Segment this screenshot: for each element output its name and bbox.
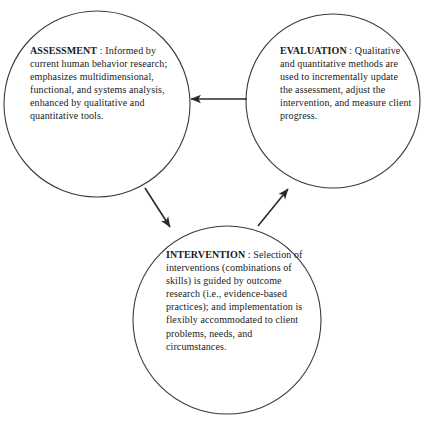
node-body-assessment: Informed by current human behavior resea…	[30, 45, 167, 121]
node-title-intervention: INTERVENTION	[166, 249, 245, 260]
arrow-intervention-to-evaluation	[258, 189, 288, 226]
node-separator-evaluation: :	[347, 45, 355, 56]
node-body-intervention: Selection of interventions (combinations…	[166, 249, 303, 352]
node-body-evaluation: Qualitative and quantitative methods are…	[280, 45, 412, 121]
node-title-assessment: ASSESSMENT	[30, 45, 97, 56]
node-label-intervention: INTERVENTION : Selection of intervention…	[166, 248, 308, 353]
node-title-evaluation: EVALUATION	[280, 45, 347, 56]
node-label-assessment: ASSESSMENT : Informed by current human b…	[30, 44, 185, 123]
diagram-canvas: ASSESSMENT : Informed by current human b…	[0, 0, 423, 425]
node-label-evaluation: EVALUATION : Qualitative and quantitativ…	[280, 44, 412, 123]
arrow-assessment-to-intervention	[145, 188, 170, 227]
